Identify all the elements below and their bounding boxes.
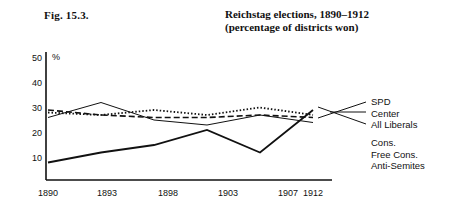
legend-item-all-liberals: All Liberals (371, 119, 417, 131)
legend-item-free-cons: Free Cons. (371, 149, 425, 161)
legend-item-anti-semites: Anti-Semites (371, 160, 425, 172)
chart-plot-area: 50 40 30 20 10 % 1890 1893 1898 1903 190… (0, 0, 454, 208)
legend-item-center: Center (371, 108, 417, 120)
series-line-spd (48, 110, 313, 163)
legend-group-top: SPD Center All Liberals (371, 96, 417, 131)
legend-group-bottom: Cons. Free Cons. Anti-Semites (371, 137, 425, 172)
legend-item-cons: Cons. (371, 137, 425, 149)
legend-leader-lines (318, 102, 366, 124)
chart-axes (46, 52, 332, 180)
legend-item-spd: SPD (371, 96, 417, 108)
chart-series-layer (48, 103, 313, 163)
